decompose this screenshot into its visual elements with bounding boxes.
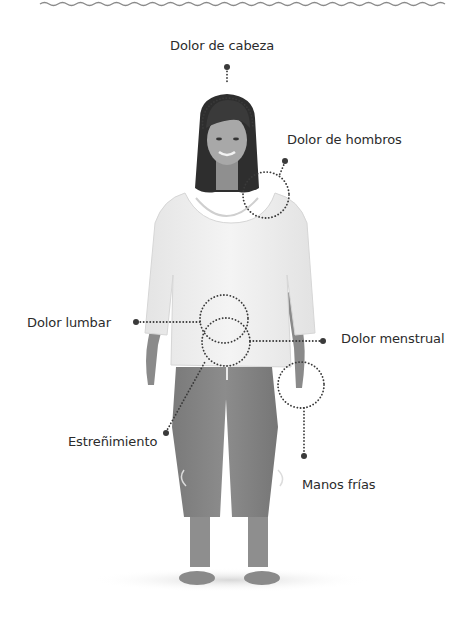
hand-marker-dot <box>301 453 307 459</box>
label-shoulder-pain: Dolor de hombros <box>287 132 402 147</box>
symptom-markers <box>0 0 467 619</box>
menstrual-marker-ring <box>202 318 250 366</box>
label-lower-back-pain: Dolor lumbar <box>27 315 111 330</box>
label-menstrual-pain: Dolor menstrual <box>341 331 444 346</box>
hand-marker-ring <box>278 362 324 408</box>
shoulder-marker-dot <box>282 158 288 164</box>
lumbar-marker-ring <box>200 295 248 343</box>
lumbar-marker-dot <box>133 319 139 325</box>
label-headache: Dolor de cabeza <box>170 38 274 53</box>
constipation-marker-dot <box>163 430 169 436</box>
label-cold-hands: Manos frías <box>302 477 375 492</box>
head-marker-dot <box>224 64 230 70</box>
head-marker-ring <box>202 98 253 128</box>
label-constipation: Estreñimiento <box>68 434 157 449</box>
menstrual-marker-dot <box>320 338 326 344</box>
shoulder-marker-ring <box>243 172 289 218</box>
